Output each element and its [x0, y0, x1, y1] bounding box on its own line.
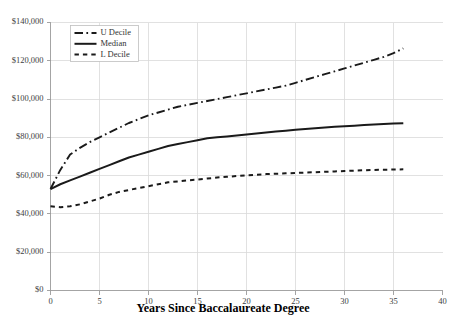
- x-tick-label: 35: [389, 296, 398, 306]
- axes: [47, 23, 443, 295]
- y-tick-label: $100,000: [12, 93, 44, 103]
- gridlines: [51, 23, 443, 291]
- y-tick-label: $80,000: [16, 131, 44, 141]
- chart-legend: U DecileMedianL Decile: [71, 26, 139, 62]
- y-axis-tick-labels: $0$20,000$40,000$60,000$80,000$100,000$1…: [12, 16, 44, 294]
- x-axis-title: Years Since Baccalaureate Degree: [136, 301, 310, 315]
- y-tick-label: $120,000: [12, 55, 44, 65]
- data-series: [51, 48, 404, 207]
- x-tick-label: 5: [97, 296, 101, 306]
- legend-label-u-decile: U Decile: [101, 27, 132, 37]
- chart-container: $0$20,000$40,000$60,000$80,000$100,000$1…: [0, 0, 456, 324]
- series-line-l-decile: [51, 169, 404, 207]
- legend-label-median: Median: [101, 38, 128, 48]
- y-tick-label: $60,000: [16, 170, 44, 180]
- line-chart: $0$20,000$40,000$60,000$80,000$100,000$1…: [0, 0, 456, 324]
- x-tick-label: 40: [438, 296, 447, 306]
- y-tick-label: $140,000: [12, 16, 44, 26]
- legend-label-l-decile: L Decile: [101, 49, 130, 59]
- y-tick-label: $20,000: [16, 246, 44, 256]
- series-line-median: [51, 123, 404, 189]
- x-tick-label: 30: [340, 296, 349, 306]
- y-tick-label: $40,000: [16, 208, 44, 218]
- y-tick-label: $0: [35, 284, 44, 294]
- x-tick-label: 0: [48, 296, 52, 306]
